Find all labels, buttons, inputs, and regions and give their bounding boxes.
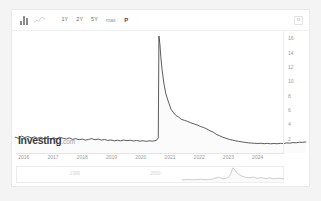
x-axis-tick: 2016 <box>18 155 29 160</box>
chart-toolbar: 1Y 2Y 5Y max P <box>12 10 309 30</box>
watermark-suffix: .com <box>61 138 74 145</box>
watermark-brand: Investing <box>18 134 61 146</box>
chart-navigator[interactable]: 1990 2000 <box>16 166 284 183</box>
navigator-label: 2000 <box>150 172 160 177</box>
navigator-handle-left[interactable] <box>16 167 17 182</box>
x-axis-tick: 2021 <box>164 155 175 160</box>
chart-widget-card: 1Y 2Y 5Y max P 161412108642 Investing.co… <box>11 9 310 187</box>
timeframe-5y[interactable]: 5Y <box>90 16 100 23</box>
page-background: 1Y 2Y 5Y max P 161412108642 Investing.co… <box>0 0 321 201</box>
investing-watermark: Investing.com <box>18 135 75 146</box>
x-axis-tick: 2023 <box>223 155 234 160</box>
x-axis-tick: 2022 <box>194 155 205 160</box>
x-axis-tick: 2024 <box>252 155 263 160</box>
x-axis-tick: 2017 <box>47 155 58 160</box>
bar-chart-icon[interactable] <box>18 15 29 25</box>
pattern-button[interactable]: P <box>122 17 130 23</box>
timeframe-1y[interactable]: 1Y <box>60 16 70 23</box>
line-chart-icon[interactable] <box>34 15 45 25</box>
navigator-mini-chart <box>182 167 284 182</box>
timeframe-max[interactable]: max <box>104 17 117 24</box>
settings-icon[interactable] <box>294 16 303 25</box>
x-axis-tick: 2020 <box>135 155 146 160</box>
y-axis-line <box>283 31 284 154</box>
x-axis-labels: 201620172018201920202021202220232024 <box>12 155 284 165</box>
toolbar-right-group <box>294 16 303 25</box>
timeframe-2y[interactable]: 2Y <box>75 16 85 23</box>
x-axis-tick: 2018 <box>77 155 88 160</box>
x-axis-tick: 2019 <box>106 155 117 160</box>
navigator-label: 1990 <box>70 172 80 177</box>
